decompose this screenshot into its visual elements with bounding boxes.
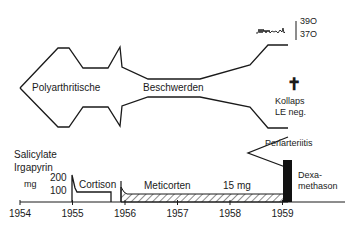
temp-high-label: 39O: [300, 16, 317, 26]
cross-icon: ✝: [287, 74, 301, 94]
year-label: 1957: [166, 208, 189, 219]
collapse-label: Kollaps: [275, 96, 305, 106]
clinical-course-diagram: Polyarthritische Beschwerden 39O 37O ✝ K…: [0, 0, 351, 228]
symptom-label-left: Polyarthritische: [32, 82, 101, 93]
cortison-label: Cortison: [79, 179, 116, 190]
irgapyrin-label: Irgapyrin: [14, 162, 53, 173]
dose-tick-100: 100: [50, 185, 67, 196]
year-label: 1958: [219, 208, 242, 219]
mg-unit-label: mg: [24, 179, 37, 189]
dexamethason-dose-bar: [283, 160, 292, 202]
year-ticks: 195419551956195719581959: [9, 200, 294, 219]
year-label: 1956: [114, 208, 137, 219]
meticorten-dose-label: 15 mg: [223, 180, 251, 191]
le-negative-label: LE neg.: [275, 107, 306, 117]
periarteriitis-label: Periarteriitis: [265, 138, 313, 148]
dose-tick-200: 200: [50, 172, 67, 183]
dexamethason-label-line1: Dexa-: [298, 170, 322, 180]
year-label: 1959: [271, 208, 294, 219]
meticorten-label: Meticorten: [144, 180, 191, 191]
year-label: 1954: [9, 208, 32, 219]
dexamethason-label-line2: methason: [298, 181, 338, 191]
symptom-band-lower-outline: [20, 88, 288, 128]
salicylate-label: Salicylate: [14, 149, 57, 160]
temperature-curve: [256, 28, 285, 33]
year-label: 1955: [61, 208, 84, 219]
symptom-label-right: Beschwerden: [143, 82, 204, 93]
temp-low-label: 37O: [300, 29, 317, 39]
